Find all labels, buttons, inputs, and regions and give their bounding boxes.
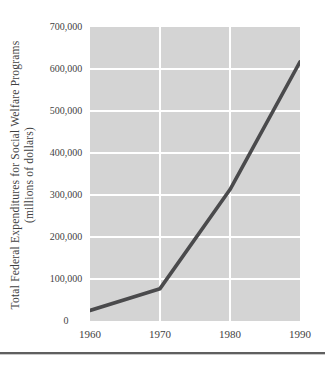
y-tick-label: 0 (40, 315, 92, 327)
bottom-rule-divider (0, 352, 325, 355)
plot-area (90, 27, 300, 321)
y-tick-label: 100,000 (40, 273, 92, 285)
x-tick-label: 1990 (276, 328, 324, 341)
x-tick-label: 1980 (206, 328, 254, 341)
y-axis-title-line2: (millions of dollars) (22, 14, 36, 336)
y-tick-label: 300,000 (40, 189, 92, 201)
y-tick-label: 200,000 (40, 231, 92, 243)
x-tick-label: 1960 (66, 328, 114, 341)
figure: Total Federal Expenditures for Social We… (0, 0, 325, 366)
y-axis-title-line1: Total Federal Expenditures for Social We… (8, 14, 22, 336)
x-tick-label: 1970 (136, 328, 184, 341)
plot-background (90, 27, 300, 321)
line-chart (90, 27, 300, 321)
y-tick-label: 500,000 (40, 105, 92, 117)
y-tick-label: 700,000 (40, 21, 92, 33)
y-tick-label: 600,000 (40, 63, 92, 75)
y-tick-label: 400,000 (40, 147, 92, 159)
